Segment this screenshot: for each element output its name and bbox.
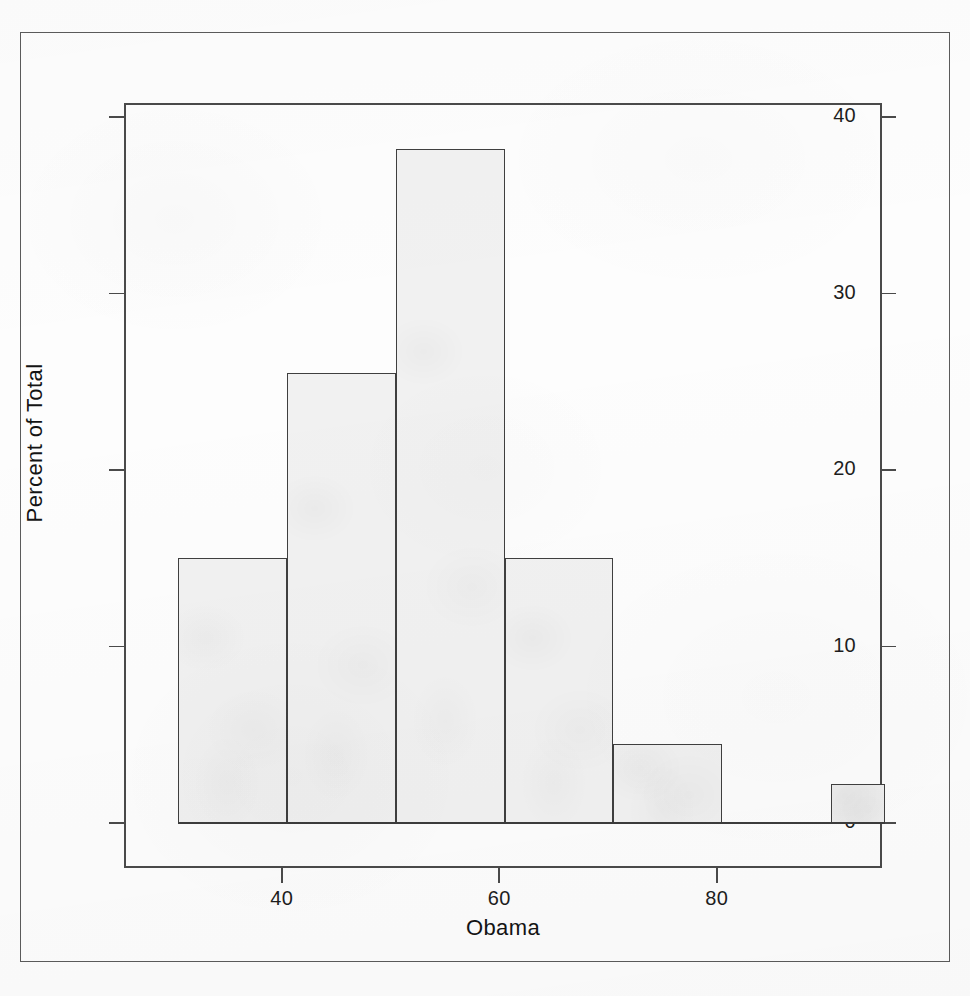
chart-page: 010203040 406080 Obama Percent of Total <box>0 0 970 996</box>
x-axis-tick-label: 80 <box>682 887 752 910</box>
plot-frame-left <box>124 103 126 868</box>
y-axis-tick-right <box>882 646 896 648</box>
x-axis-tick <box>498 868 500 883</box>
plot-frame-top <box>124 103 882 105</box>
y-axis-tick <box>109 646 124 648</box>
histogram-bar <box>396 149 505 823</box>
zero-baseline <box>178 822 885 824</box>
y-axis-tick <box>109 293 124 295</box>
y-axis-tick-right <box>882 469 896 471</box>
y-axis-tick-label: 20 <box>806 457 856 480</box>
y-axis-tick-right <box>882 116 896 118</box>
y-axis-tick-right <box>882 293 896 295</box>
histogram-bar <box>831 784 885 823</box>
bar-texture <box>832 785 884 822</box>
x-axis-title: Obama <box>124 915 882 941</box>
histogram-bar <box>287 373 396 823</box>
histogram-bar <box>178 558 287 823</box>
y-axis-tick <box>109 822 124 824</box>
histogram-bar <box>613 744 722 823</box>
histogram-bar <box>505 558 614 823</box>
plot-frame-right <box>880 103 882 868</box>
y-axis-tick <box>109 469 124 471</box>
x-axis-tick-label: 40 <box>247 887 317 910</box>
x-axis-tick <box>716 868 718 883</box>
y-axis-tick <box>109 116 124 118</box>
bar-texture <box>397 150 504 822</box>
bar-texture <box>288 374 395 822</box>
x-axis-tick-label: 60 <box>464 887 534 910</box>
plot-frame-bottom <box>124 866 882 868</box>
plot-area: 010203040 406080 <box>124 103 882 868</box>
y-axis-title: Percent of Total <box>22 263 48 623</box>
bar-texture <box>614 745 721 822</box>
y-axis-tick-label: 10 <box>806 634 856 657</box>
bar-texture <box>506 559 613 822</box>
x-axis-tick <box>281 868 283 883</box>
y-axis-tick-label: 40 <box>806 104 856 127</box>
bar-texture <box>179 559 286 822</box>
y-axis-tick-label: 30 <box>806 281 856 304</box>
